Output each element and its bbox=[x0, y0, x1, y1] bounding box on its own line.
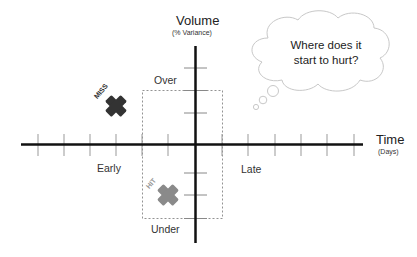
under-label: Under bbox=[151, 224, 180, 235]
y-axis-subtitle: (% Variance) bbox=[172, 29, 212, 36]
early-label: Early bbox=[97, 163, 121, 174]
x-axis-title: Time bbox=[376, 133, 404, 146]
thought-line-2: start to hurt? bbox=[270, 53, 382, 68]
miss-x-icon bbox=[100, 90, 131, 121]
over-label: Over bbox=[154, 75, 177, 86]
thought-bubble-text: Where does it start to hurt? bbox=[270, 38, 382, 68]
x-axis-subtitle: (Days) bbox=[378, 148, 399, 155]
late-label: Late bbox=[241, 164, 261, 175]
y-axis-title: Volume bbox=[176, 14, 219, 27]
tolerance-box bbox=[143, 91, 223, 219]
hit-x-icon bbox=[152, 179, 183, 210]
thought-line-1: Where does it bbox=[270, 38, 382, 53]
